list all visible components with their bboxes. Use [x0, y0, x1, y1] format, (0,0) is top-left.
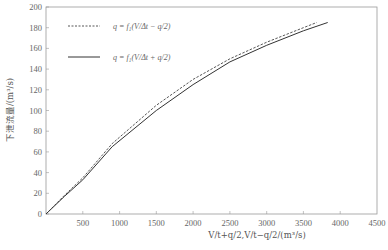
x-tick-label: 1500	[148, 218, 165, 228]
series-solid-line	[46, 23, 328, 215]
y-tick-label: 20	[34, 188, 43, 198]
x-tick-label: 1000	[111, 218, 128, 228]
x-tick-label: 500	[76, 218, 89, 228]
x-axis: 500 1000 1500 2000 2500 3000 3500 4000 4…	[76, 211, 385, 228]
y-tick-label: 80	[34, 126, 43, 136]
y-tick-label: 140	[29, 64, 42, 74]
y-tick-label: 120	[29, 85, 42, 95]
x-tick-label: 2500	[221, 218, 238, 228]
legend-dashed-label: q = f₁(V/Δt − q/2)	[113, 22, 171, 31]
series-dashed-line	[46, 23, 317, 215]
y-tick-label: 160	[29, 43, 42, 53]
x-tick-label: 4000	[332, 218, 349, 228]
plot-area-frame	[46, 7, 377, 214]
x-axis-title: V/t+q/2,V/t−q/2/(m³/s)	[207, 230, 305, 240]
legend: q = f₁(V/Δt − q/2) q = f₁(V/Δt + q/2)	[68, 22, 171, 62]
x-tick-label: 2000	[185, 218, 202, 228]
x-tick-label: 3000	[258, 218, 275, 228]
y-tick-label: 40	[34, 168, 43, 178]
x-tick-label: 4500	[369, 218, 386, 228]
y-tick-label: 0	[38, 209, 42, 219]
x-tick-label: 3500	[295, 218, 312, 228]
y-tick-label: 200	[29, 2, 42, 12]
y-tick-label: 60	[34, 147, 43, 157]
legend-solid-label: q = f₁(V/Δt + q/2)	[113, 53, 171, 62]
line-chart: 0 20 40 60 80 100 120 140 160 180 200 下泄…	[0, 0, 388, 250]
y-axis-title: 下泄流量/(m³/s)	[5, 78, 15, 142]
y-tick-label: 180	[29, 23, 42, 33]
y-tick-label: 100	[29, 106, 42, 116]
